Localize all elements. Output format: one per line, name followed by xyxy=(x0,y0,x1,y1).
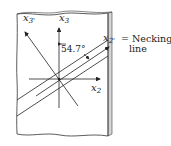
angle-arrow-right xyxy=(84,54,89,59)
angle-label: 54.7° xyxy=(61,45,86,54)
plate-side-face xyxy=(108,12,112,136)
plate-outline xyxy=(17,13,108,136)
necking-diagram: x3' x3 54.7° x2' = Neckingline x2 xyxy=(0,0,171,146)
necking-line-label: = Neckingline xyxy=(121,34,171,54)
x2-prime-label: x2' xyxy=(103,33,115,45)
x2-label: x2 xyxy=(91,83,101,95)
x3-label: x3 xyxy=(59,13,69,25)
x3-prime-label: x3' xyxy=(23,13,35,25)
